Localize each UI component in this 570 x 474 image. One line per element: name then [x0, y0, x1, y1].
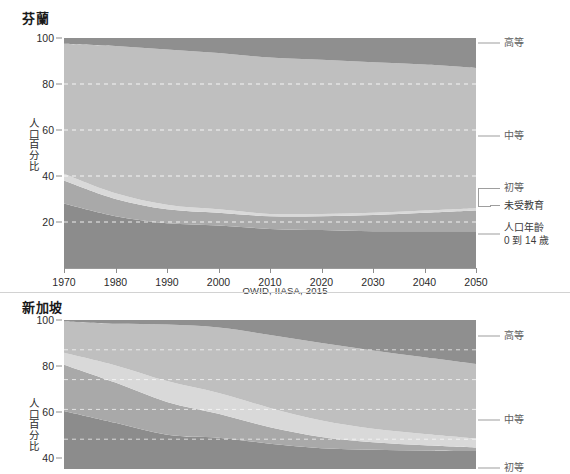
y-tick-label: 100 [36, 32, 54, 44]
x-tick-mark [476, 268, 477, 273]
series-label-secondary-2: 中等 [504, 414, 524, 427]
x-tick-mark [270, 268, 271, 273]
chart-singapore: 新加坡 100806040 人口百分比 高等 中等 初等 [0, 290, 570, 469]
series-label-tertiary-2: 高等 [504, 330, 524, 343]
y-tick-mark [56, 412, 62, 413]
series-label-secondary: 中等 [504, 130, 524, 143]
y-axis-label-finland: 人口百分比 [28, 118, 40, 172]
series-label-age-0-14-line2: 0 到 14 歲 [504, 234, 549, 245]
y-tick-mark [56, 130, 62, 131]
chart-title-finland: 芬蘭 [22, 8, 49, 27]
y-tick-label: 80 [42, 78, 54, 90]
plot-area-singapore [64, 320, 476, 469]
series-label-age-0-14-line1: 人口年齡 [504, 222, 544, 233]
x-tick-mark [322, 268, 323, 273]
leader-line-primary-2 [478, 468, 500, 469]
y-tick-mark [56, 222, 62, 223]
x-tick-mark [167, 268, 168, 273]
y-tick-label: 60 [42, 406, 54, 418]
series-labels-singapore: 高等 中等 初等 [476, 320, 570, 469]
y-tick-label: 40 [42, 170, 54, 182]
plot-area-finland [64, 38, 476, 268]
series-label-primary: 初等 [504, 182, 524, 195]
series-labels-finland: 高等 中等 初等 未受教育 人口年齡 0 到 14 歲 [476, 38, 570, 268]
y-tick-mark [56, 38, 62, 39]
chart-finland: 芬蘭 10080604020 人口百分比 1970198019902000201… [0, 0, 570, 300]
leader-line-tertiary [478, 43, 500, 44]
series-label-age-0-14: 人口年齡 0 到 14 歲 [504, 222, 549, 247]
y-tick-mark [56, 84, 62, 85]
series-label-tertiary: 高等 [504, 37, 524, 50]
x-tick-mark [116, 268, 117, 273]
y-tick-mark [56, 176, 62, 177]
bracket-stub-noeducation [490, 205, 500, 206]
y-tick-label: 100 [36, 314, 54, 326]
series-label-no-education: 未受教育 [504, 200, 544, 213]
series-label-primary-2: 初等 [504, 462, 524, 474]
y-tick-mark [56, 320, 62, 321]
leader-line-tertiary-2 [478, 336, 500, 337]
y-tick-label: 80 [42, 360, 54, 372]
x-tick-mark [373, 268, 374, 273]
y-tick-mark [56, 458, 62, 459]
bracket-stub-primary [490, 188, 500, 189]
stacked-area-svg-finland [64, 38, 476, 268]
y-tick-label: 60 [42, 124, 54, 136]
x-tick-mark [219, 268, 220, 273]
leader-line-age-0-14 [478, 234, 500, 235]
y-tick-label: 40 [42, 452, 54, 464]
y-tick-mark [56, 366, 62, 367]
y-tick-label: 20 [42, 216, 54, 228]
x-tick-mark [64, 268, 65, 273]
stacked-area-svg-singapore [64, 320, 476, 469]
leader-line-secondary-2 [478, 420, 500, 421]
leader-line-secondary [478, 136, 500, 137]
x-tick-mark [425, 268, 426, 273]
y-axis-label-singapore: 人口百分比 [28, 398, 40, 452]
